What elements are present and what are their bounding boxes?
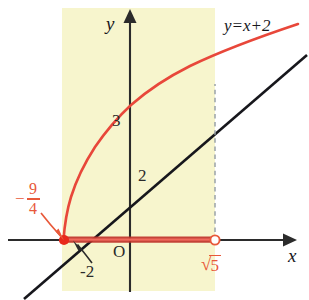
origin-label: O <box>113 243 125 260</box>
solution-endpoint-open-marker <box>210 235 219 244</box>
curve-start-fraction-label: − 9 4 <box>15 181 40 217</box>
coordinate-plane-svg <box>0 0 309 300</box>
y-tick-label-3: 3 <box>112 112 121 129</box>
radicand-value: 5 <box>209 255 221 274</box>
graph-figure: y x O y=x+2 3 2 -2 − 9 4 √ 5 <box>0 0 309 300</box>
x-intersection-sqrt-label: √ 5 <box>201 255 221 274</box>
y-tick-label-2: 2 <box>138 167 147 184</box>
shaded-band-region <box>62 8 215 291</box>
fraction-numerator: 9 <box>28 181 38 197</box>
fraction-stack: 9 4 <box>27 181 40 217</box>
fraction-minus-sign: − <box>15 189 25 209</box>
x-tick-label-minus-2: -2 <box>80 263 94 280</box>
x-axis-label: x <box>288 246 296 265</box>
fraction-denominator: 4 <box>28 201 38 217</box>
line-equation-label: y=x+2 <box>224 17 271 34</box>
y-axis-label: y <box>106 14 114 33</box>
